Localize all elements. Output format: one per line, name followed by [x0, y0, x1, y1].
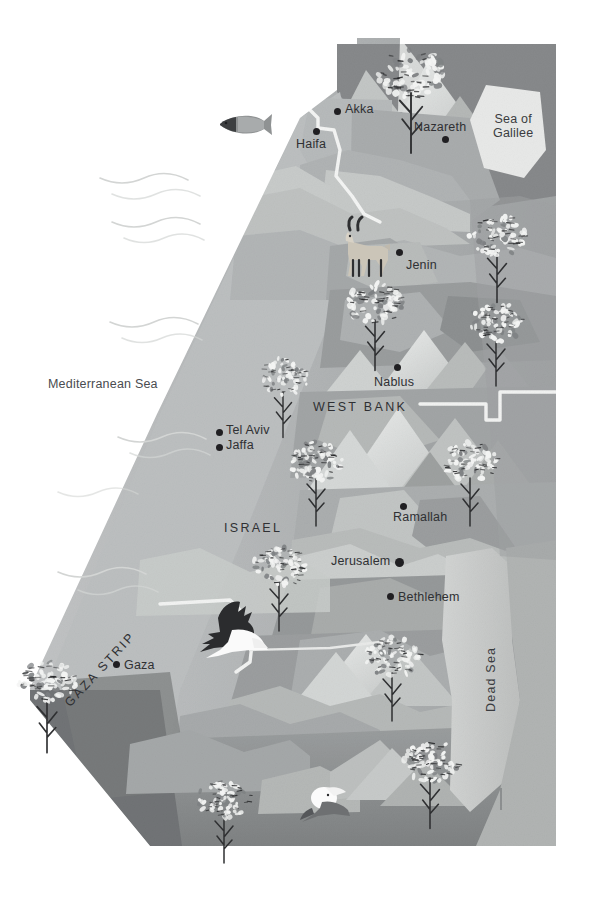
- dead-sea-label: Dead Sea: [484, 647, 498, 712]
- city-label-nablus[interactable]: Nablus: [374, 375, 414, 389]
- scale-tick: [500, 788, 502, 810]
- city-dot-bethlehem[interactable]: [387, 593, 394, 600]
- city-dot-tel-aviv[interactable]: [216, 429, 223, 436]
- city-label-jerusalem[interactable]: Jerusalem: [331, 554, 390, 568]
- city-dot-jenin[interactable]: [396, 249, 403, 256]
- mediterranean-sea-label: Mediterranean Sea: [48, 377, 158, 391]
- city-label-haifa[interactable]: Haifa: [296, 137, 326, 151]
- sea-of-galilee-line2: Galilee: [493, 126, 533, 140]
- city-dot-akka[interactable]: [334, 108, 341, 115]
- fish-icon: [220, 114, 272, 135]
- city-label-bethlehem[interactable]: Bethlehem: [398, 590, 460, 604]
- sea-of-galilee-label: Sea of Galilee: [493, 112, 533, 140]
- city-dot-gaza[interactable]: [113, 661, 120, 668]
- city-dot-nazareth[interactable]: [442, 136, 449, 143]
- city-dot-haifa[interactable]: [313, 128, 320, 135]
- city-dot-ramallah[interactable]: [400, 503, 407, 510]
- illustrated-map: Mediterranean Sea Sea of Galilee Dead Se…: [0, 0, 593, 907]
- city-label-jenin[interactable]: Jenin: [406, 258, 437, 272]
- city-label-jaffa[interactable]: Jaffa: [226, 438, 254, 452]
- city-label-akka[interactable]: Akka: [345, 102, 374, 116]
- city-label-tel-aviv[interactable]: Tel Aviv: [226, 423, 270, 437]
- city-label-nazareth[interactable]: Nazareth: [414, 120, 466, 134]
- city-dot-nablus[interactable]: [394, 364, 401, 371]
- city-dot-jerusalem[interactable]: [395, 558, 404, 567]
- city-dot-jaffa[interactable]: [216, 444, 223, 451]
- sea-of-galilee-line1: Sea of: [494, 112, 531, 126]
- region-label-west-bank: WEST BANK: [313, 400, 407, 414]
- city-label-ramallah[interactable]: Ramallah: [393, 510, 447, 524]
- city-label-gaza[interactable]: Gaza: [124, 658, 155, 672]
- region-label-israel: ISRAEL: [224, 521, 282, 535]
